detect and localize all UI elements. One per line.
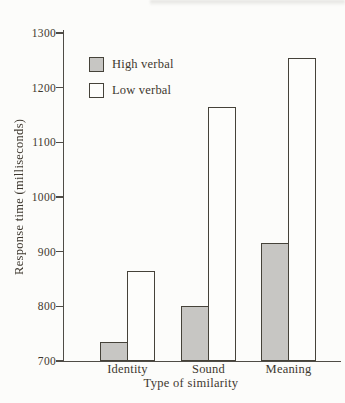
bar-meaning-low-verbal xyxy=(288,58,316,361)
y-tick-label: 800 xyxy=(16,299,56,313)
y-tick-mark xyxy=(56,32,63,33)
y-tick-mark xyxy=(56,251,63,252)
legend-label-low-verbal: Low verbal xyxy=(112,83,171,98)
y-tick-mark xyxy=(56,87,63,88)
bar-sound-low-verbal xyxy=(208,107,236,361)
y-tick-label: 700 xyxy=(16,354,56,368)
legend-row-high-verbal: High verbal xyxy=(89,56,174,72)
x-category-label: Identity xyxy=(83,362,173,376)
x-axis-title: Type of similarity xyxy=(91,376,291,390)
x-category-label: Meaning xyxy=(244,362,334,376)
bar-sound-high-verbal xyxy=(181,306,209,361)
y-tick-mark xyxy=(56,142,63,143)
bar-identity-high-verbal xyxy=(100,342,128,361)
y-axis-title: Response time (milliseconds) xyxy=(11,101,27,293)
bar-identity-low-verbal xyxy=(127,271,155,361)
legend-swatch-high-verbal xyxy=(89,57,104,72)
bar-meaning-high-verbal xyxy=(261,243,289,361)
legend-swatch-low-verbal xyxy=(89,83,104,98)
legend-label-high-verbal: High verbal xyxy=(112,57,174,72)
figure-canvas: { "chart_data": { "type": "bar", "title"… xyxy=(0,0,345,403)
y-axis-line xyxy=(63,30,64,362)
y-tick-label: 1200 xyxy=(16,81,56,95)
bar-chart-figure: 7008009001000110012001300IdentitySoundMe… xyxy=(0,0,345,403)
legend-row-low-verbal: Low verbal xyxy=(89,82,174,98)
y-tick-label: 1300 xyxy=(16,26,56,40)
y-tick-mark xyxy=(56,360,63,361)
legend: High verbal Low verbal xyxy=(89,56,174,108)
y-tick-mark xyxy=(56,306,63,307)
y-tick-mark xyxy=(56,196,63,197)
x-category-label: Sound xyxy=(164,362,254,376)
